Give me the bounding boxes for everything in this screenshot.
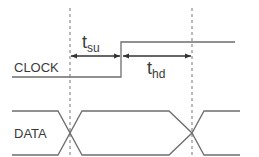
clock-signal-label: CLOCK (14, 60, 59, 75)
timing-diagram: tsu thd CLOCK DATA (0, 0, 259, 157)
hold-time-label: thd (147, 58, 165, 81)
setup-time-label: tsu (82, 32, 100, 55)
hold-time-arrow (123, 54, 191, 59)
data-signal-label: DATA (14, 126, 47, 141)
